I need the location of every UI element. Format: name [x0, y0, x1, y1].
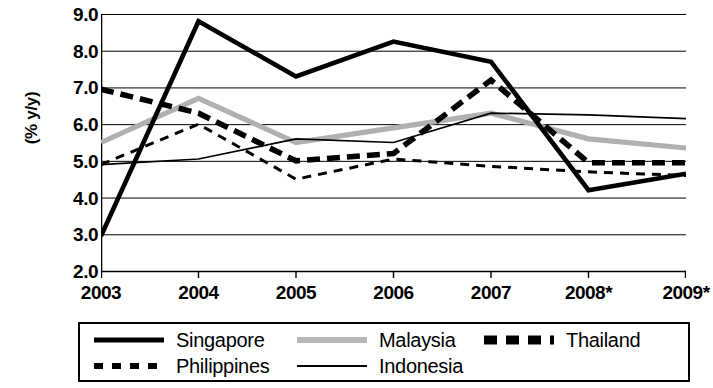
series-line-malaysia — [101, 98, 686, 148]
legend-label-philippines: Philippines — [176, 355, 269, 378]
legend-row-2: Philippines Indonesia — [80, 352, 688, 380]
legend-swatch-singapore — [92, 329, 166, 351]
y-tick-3-0: 3.0 — [40, 225, 98, 244]
swatch-line — [94, 338, 164, 343]
y-tick-4-0: 4.0 — [40, 189, 98, 208]
y-tick-5-0: 5.0 — [40, 152, 98, 171]
legend-item-indonesia[interactable]: Indonesia — [295, 352, 463, 380]
swatch-line — [94, 363, 164, 369]
legend-swatch-malaysia — [295, 329, 369, 351]
y-tick-7-0: 7.0 — [40, 78, 98, 97]
x-tick-2009est: 2009* — [641, 282, 713, 304]
x-tick-2005: 2005 — [251, 282, 341, 304]
series-group — [101, 21, 686, 236]
line-chart: (% y/y) 9.08.07.06.05.04.03.02.0 2003200… — [0, 0, 713, 388]
legend-item-singapore[interactable]: Singapore — [92, 326, 264, 354]
x-tick-2004: 2004 — [154, 282, 244, 304]
legend-swatch-indonesia — [295, 355, 369, 377]
plot-svg — [101, 14, 686, 281]
legend-item-philippines[interactable]: Philippines — [92, 352, 269, 380]
x-tick-2008est: 2008* — [544, 282, 634, 304]
legend-label-thailand: Thailand — [566, 329, 640, 352]
plot-area — [101, 14, 686, 271]
legend-label-singapore: Singapore — [176, 329, 264, 352]
series-line-thailand — [101, 80, 686, 163]
legend-swatch-thailand — [482, 329, 556, 351]
chart-legend: Singapore Malaysia Thailand Philippines … — [78, 322, 690, 382]
legend-item-thailand[interactable]: Thailand — [482, 326, 640, 354]
legend-row-1: Singapore Malaysia Thailand — [80, 326, 688, 354]
legend-label-malaysia: Malaysia — [379, 329, 456, 352]
swatch-line — [297, 337, 367, 343]
x-tick-2006: 2006 — [349, 282, 439, 304]
y-tick-8-0: 8.0 — [40, 42, 98, 61]
swatch-line — [297, 365, 367, 367]
y-axis-tick-labels: 9.08.07.06.05.04.03.02.0 — [0, 0, 98, 290]
legend-item-malaysia[interactable]: Malaysia — [295, 326, 456, 354]
swatch-line — [484, 336, 554, 345]
legend-label-indonesia: Indonesia — [379, 355, 463, 378]
y-tick-6-0: 6.0 — [40, 115, 98, 134]
x-tick-2003: 2003 — [56, 282, 146, 304]
legend-swatch-philippines — [92, 355, 166, 377]
y-tick-9-0: 9.0 — [40, 5, 98, 24]
y-tick-2-0: 2.0 — [40, 262, 98, 281]
x-tick-2007: 2007 — [446, 282, 536, 304]
